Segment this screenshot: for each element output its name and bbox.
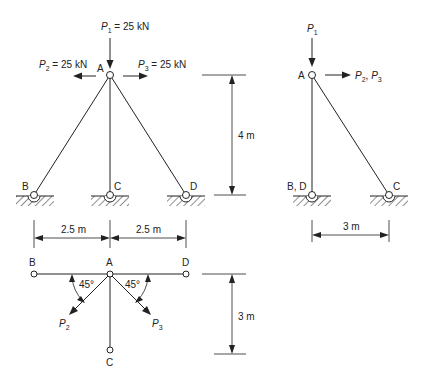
support-d	[167, 192, 205, 207]
node-a-label: A	[97, 63, 104, 74]
side-support-bd	[293, 192, 331, 207]
node-b-label: B	[22, 181, 29, 192]
plan-node-a	[107, 271, 113, 277]
plan-node-c-label: C	[106, 357, 113, 368]
support-c	[91, 192, 129, 207]
load-p2-label: P2 = 25 kN	[39, 59, 87, 72]
plan-view: P2 P3 45° 45° B A D C	[29, 257, 255, 368]
side-load-p1-label: P1	[307, 23, 318, 36]
node-a	[107, 72, 114, 79]
node-d-label: D	[190, 181, 197, 192]
side-load-p23-arrow	[325, 72, 351, 79]
support-b	[16, 192, 54, 207]
load-p3-arrow	[123, 73, 148, 80]
side-node-bd-label: B, D	[287, 181, 306, 192]
member-a-c	[312, 75, 389, 195]
angle-right-label: 45°	[125, 279, 140, 290]
dimension-span-left-label: 2.5 m	[61, 224, 86, 235]
plan-dimension-depth-label: 3 m	[238, 311, 255, 322]
plan-node-b-label: B	[29, 257, 36, 268]
dimension-span-right-label: 2.5 m	[136, 224, 161, 235]
side-view: P1 P2, P3 A B, D C	[287, 23, 408, 242]
load-p3-label: P3 = 25 kN	[138, 59, 186, 72]
angle-left-label: 45°	[79, 279, 94, 290]
side-node-a	[309, 72, 316, 79]
side-load-p23-label: P2, P3	[355, 70, 382, 83]
dimension-spans	[34, 220, 186, 248]
plan-load-p3-label: P3	[152, 318, 163, 331]
tripod-structure-diagram: P1 = 25 kN P2 = 25 kN P3 = 25 kN A B	[0, 0, 422, 384]
side-load-p1-arrow	[309, 38, 316, 67]
side-support-c	[370, 192, 408, 207]
dimension-height-label: 4 m	[238, 130, 255, 141]
plan-node-d-label: D	[182, 257, 189, 268]
side-node-c-label: C	[393, 181, 400, 192]
node-c-label: C	[114, 181, 121, 192]
plan-node-c	[107, 347, 113, 353]
member-ad	[110, 75, 186, 195]
load-p1-arrow	[107, 38, 114, 69]
load-p2-arrow	[73, 73, 96, 80]
side-node-a-label: A	[298, 70, 305, 81]
front-view: P1 = 25 kN P2 = 25 kN P3 = 25 kN A B	[16, 21, 255, 248]
plan-load-p2-label: P2	[59, 318, 70, 331]
side-dimension-width-label: 3 m	[343, 221, 360, 232]
load-p1-label: P1 = 25 kN	[101, 21, 149, 34]
plan-node-a-label: A	[106, 257, 113, 268]
member-ab	[34, 75, 110, 195]
plan-node-b	[31, 271, 37, 277]
plan-node-d	[183, 271, 189, 277]
